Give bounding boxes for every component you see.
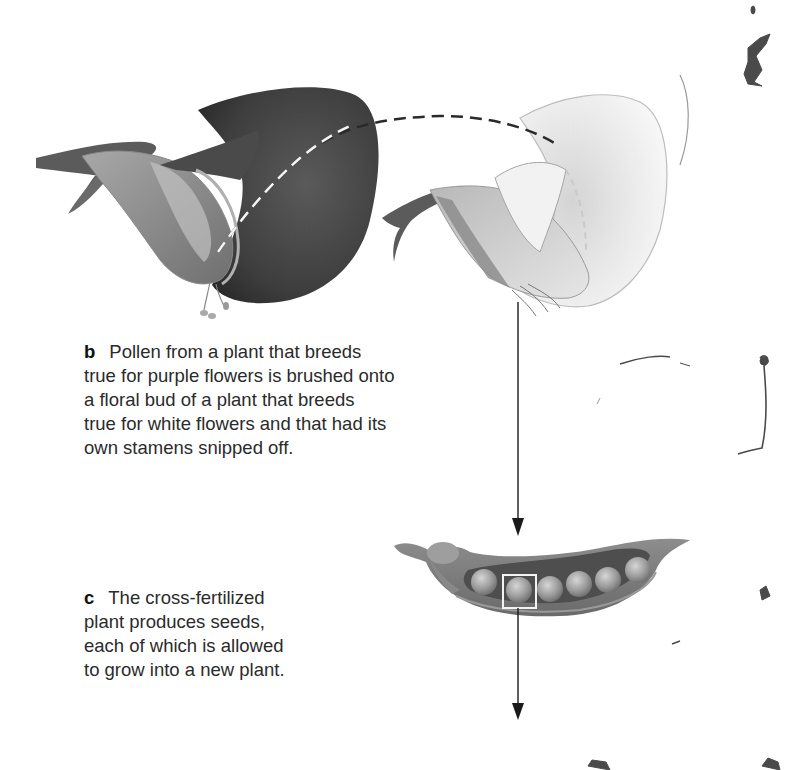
caption-c-line-3: each of which is allowed: [84, 634, 285, 658]
caption-b-line-2: true for purple flowers is brushed onto: [84, 364, 395, 388]
pea-pod-illustration: [394, 539, 690, 617]
purple-flower-illustration: [36, 87, 379, 319]
caption-c: cThe cross-fertilized plant produces see…: [84, 586, 285, 682]
white-flower-illustration: [382, 95, 667, 316]
caption-b-line-1: Pollen from a plant that breeds: [109, 341, 361, 362]
arrow-flower-to-pod: [512, 302, 524, 536]
caption-b-letter: b: [84, 341, 95, 362]
caption-b-line-5: own stamens snipped off.: [84, 436, 395, 460]
caption-b-line-3: a floral bud of a plant that breeds: [84, 388, 395, 412]
caption-c-letter: c: [84, 587, 94, 608]
caption-c-line-4: to grow into a new plant.: [84, 658, 285, 682]
caption-c-line-1: The cross-fertilized: [108, 587, 264, 608]
caption-c-line-2: plant produces seeds,: [84, 610, 285, 634]
caption-b-line-4: true for white flowers and that had its: [84, 412, 395, 436]
caption-b: bPollen from a plant that breeds true fo…: [84, 340, 395, 460]
